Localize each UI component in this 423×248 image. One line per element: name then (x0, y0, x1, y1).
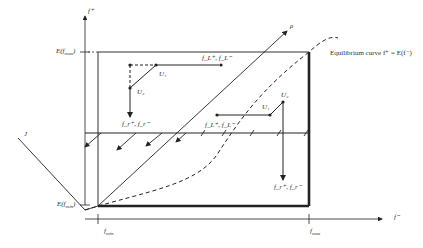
tick-e-fmax: E(fmax) (56, 48, 75, 56)
pair-top-label: f_L⁺, f_L⁻ (202, 55, 232, 62)
pair-mid-label: f_L⁺, f_L⁻ (205, 122, 235, 129)
x-axis (85, 214, 382, 224)
equilibrium-label: Equilibrium curve f⁺ = E(f⁻) (330, 50, 412, 57)
u2-right-label: U₂ (281, 92, 289, 99)
j-label: J (24, 131, 27, 138)
u1-right-label: U₁ (262, 104, 270, 111)
rho-label: ρ (290, 23, 293, 30)
pair-bottom-label: f_r⁺, f_r⁻ (274, 184, 302, 191)
u1-top-label: U₁ (159, 71, 167, 78)
tick-e-fmin: E(fmin) (57, 201, 75, 209)
y-axis-label: f⁺ (88, 8, 94, 15)
x-axis-label: f⁻ (394, 214, 400, 221)
rho-line (98, 31, 287, 206)
flow-line (85, 130, 309, 150)
pair-left-label: f_r⁺, f_r⁻ (122, 121, 150, 128)
tick-fmax: fmax (310, 228, 320, 236)
y-axis (80, 16, 90, 205)
tick-fmin: fmin (104, 228, 113, 236)
u2-top-label: U₂ (137, 89, 145, 96)
right-path (215, 100, 284, 180)
